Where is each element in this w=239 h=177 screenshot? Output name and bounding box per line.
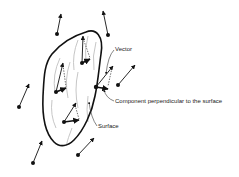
vector-label: Vector bbox=[115, 46, 132, 52]
component-label: Component perpendicular to the surface bbox=[115, 98, 222, 104]
vector-surface-diagram: Vector Component perpendicular to the su… bbox=[0, 0, 239, 177]
surface-vectors bbox=[54, 36, 113, 124]
diagram-graphic bbox=[0, 0, 239, 177]
surface-label: Surface bbox=[98, 123, 119, 129]
